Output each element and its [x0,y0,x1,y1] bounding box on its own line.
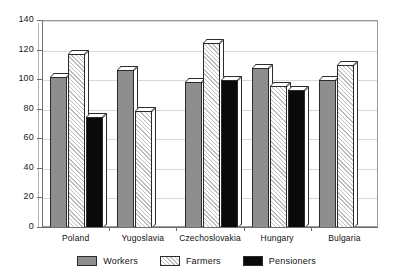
y-axis-tick-label: 40 [0,163,34,172]
bar-side-face [238,76,242,228]
y-axis-tick-label: 100 [0,74,34,83]
x-axis-line [42,227,378,228]
bar [288,90,305,228]
bar-front-face [337,65,354,228]
bar-front-face [221,80,238,228]
y-axis-tick [37,197,42,198]
y-axis-line [42,20,43,227]
legend-swatch [160,256,180,266]
y-axis-tick-label: 0 [0,222,34,231]
x-axis-tick [244,227,245,231]
chart-legend: WorkersFarmersPensioners [0,256,393,266]
bar [337,65,354,228]
y-axis-tick [37,79,42,80]
y-axis-tick-label: 60 [0,133,34,142]
bar-side-face [305,86,309,228]
legend-item: Workers [77,256,138,266]
bar-front-face [203,43,220,228]
legend-item: Pensioners [243,256,316,266]
bar-side-face [152,107,156,228]
bar [50,77,67,228]
bar-front-face [68,54,85,228]
bar-front-face [270,86,287,228]
bar-side-face [103,113,107,228]
gridline [43,21,377,22]
bar-side-face [354,61,358,228]
y-axis-tick [37,109,42,110]
bar [319,80,336,228]
bar-front-face [50,77,67,228]
y-axis-tick [37,50,42,51]
legend-label: Pensioners [269,256,316,266]
bar-chart: 140120100806040200 PolandYugoslaviaCzech… [0,0,393,280]
y-axis-tick-label: 140 [0,15,34,24]
bar-front-face [117,70,134,228]
legend-label: Farmers [186,256,221,266]
bar [135,111,152,228]
bar-front-face [86,117,103,228]
bar [86,117,103,228]
legend-item: Farmers [160,256,221,266]
bar [185,82,202,228]
y-axis-tick [37,138,42,139]
legend-label: Workers [103,256,138,266]
bar [68,54,85,228]
bar [221,80,238,228]
y-axis-tick-label: 80 [0,104,34,113]
x-axis-tick [176,227,177,231]
y-axis-tick [37,20,42,21]
bar-front-face [252,68,269,228]
x-axis-tick-label: Bulgaria [299,233,389,243]
y-axis-tick [37,168,42,169]
bar [203,43,220,228]
bar-front-face [288,90,305,228]
x-axis-tick [311,227,312,231]
bar-front-face [319,80,336,228]
bar-front-face [185,82,202,228]
bar [117,70,134,228]
legend-swatch [77,256,97,266]
bar-front-face [135,111,152,228]
legend-swatch [243,256,263,266]
bar [252,68,269,228]
y-axis-tick-label: 120 [0,45,34,54]
y-axis-tick-label: 20 [0,192,34,201]
x-axis-tick [109,227,110,231]
bar [270,86,287,228]
plot-area [42,20,378,227]
